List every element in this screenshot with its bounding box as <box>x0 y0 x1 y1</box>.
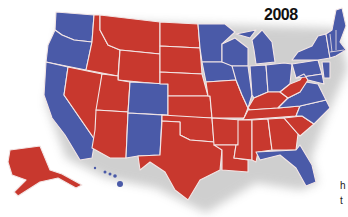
state-nj <box>322 62 330 78</box>
state-az <box>92 110 128 158</box>
state-co <box>128 82 168 115</box>
us-electoral-map <box>0 0 348 217</box>
state-nd <box>160 22 200 48</box>
state-nm <box>126 113 162 158</box>
year-label: 2008 <box>264 6 298 24</box>
state-ks <box>168 96 212 118</box>
cropped-text-2: t <box>340 195 343 206</box>
cropped-text-1: h <box>340 180 346 191</box>
state-wy <box>118 50 160 84</box>
state-sd <box>160 46 202 74</box>
